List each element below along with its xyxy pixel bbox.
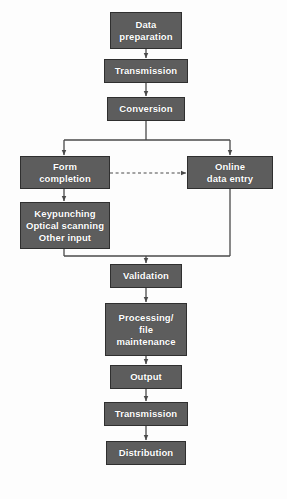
node-transmission-top[interactable]: Transmission bbox=[104, 59, 188, 83]
node-transmission-top-label: Transmission bbox=[115, 65, 177, 77]
node-transmission-bottom-label: Transmission bbox=[115, 408, 177, 420]
node-processing-line-2: file bbox=[139, 324, 153, 336]
node-input-methods-line-1: Keypunching bbox=[34, 208, 95, 220]
node-conversion[interactable]: Conversion bbox=[107, 97, 185, 121]
node-input-methods-line-2: Optical scanning bbox=[26, 220, 104, 232]
node-transmission-bottom[interactable]: Transmission bbox=[104, 402, 188, 426]
node-validation[interactable]: Validation bbox=[110, 264, 182, 288]
node-form-completion-line-2: completion bbox=[39, 173, 91, 185]
node-form-completion[interactable]: Form completion bbox=[20, 156, 110, 189]
node-data-preparation-line-1: Data bbox=[136, 19, 157, 31]
node-validation-label: Validation bbox=[123, 270, 169, 282]
node-data-preparation[interactable]: Data preparation bbox=[110, 12, 182, 49]
node-form-completion-line-1: Form bbox=[53, 161, 77, 173]
node-distribution-label: Distribution bbox=[119, 447, 174, 459]
node-distribution[interactable]: Distribution bbox=[106, 441, 186, 465]
node-conversion-label: Conversion bbox=[119, 103, 172, 115]
node-online-data-entry[interactable]: Online data entry bbox=[187, 156, 273, 189]
node-output[interactable]: Output bbox=[110, 365, 182, 389]
node-data-preparation-line-2: preparation bbox=[119, 31, 172, 43]
node-processing-line-1: Processing/ bbox=[119, 312, 174, 324]
node-online-data-entry-line-1: Online bbox=[215, 161, 245, 173]
node-input-methods-line-3: Other input bbox=[39, 232, 91, 244]
node-online-data-entry-line-2: data entry bbox=[207, 173, 253, 185]
node-output-label: Output bbox=[130, 371, 162, 383]
flowchart-diagram: Data preparation Transmission Conversion… bbox=[0, 0, 287, 499]
node-processing-line-3: maintenance bbox=[116, 336, 175, 348]
node-processing-file-maintenance[interactable]: Processing/ file maintenance bbox=[105, 303, 187, 356]
node-input-methods[interactable]: Keypunching Optical scanning Other input bbox=[20, 202, 110, 249]
